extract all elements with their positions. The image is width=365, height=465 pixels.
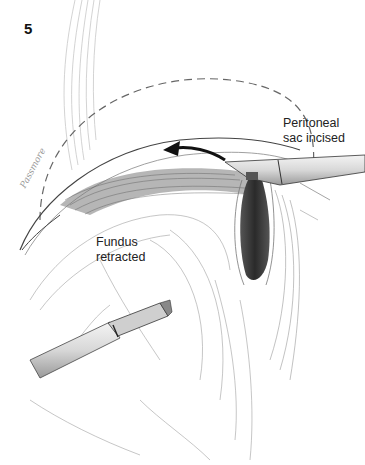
- stomach-band: [60, 168, 253, 215]
- illustration-drawing: [0, 0, 365, 465]
- background-strokes: [64, 0, 100, 170]
- label-line: sac incised: [283, 131, 345, 146]
- figure-number: 5: [24, 20, 32, 37]
- label-fundus-retracted: Fundus retracted: [96, 235, 145, 265]
- label-line: Fundus: [96, 235, 145, 250]
- hiatus-opening: [240, 180, 269, 280]
- label-line: retracted: [96, 250, 145, 265]
- label-peritoneal-sac-incised: Peritoneal sac incised: [283, 116, 345, 146]
- surgical-illustration: 5 Peritoneal sac incised Fundus retracte…: [0, 0, 365, 465]
- label-line: Peritoneal: [283, 116, 345, 131]
- laparoscopic-grasper-icon: [30, 300, 172, 378]
